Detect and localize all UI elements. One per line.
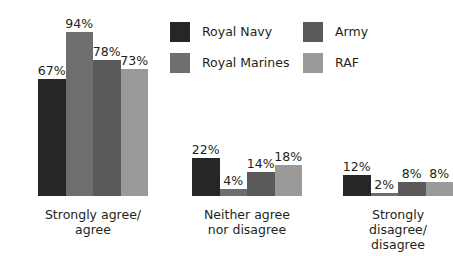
- bar-value-label: 73%: [120, 54, 148, 67]
- category-label: Strongly agree/ agree: [38, 207, 148, 237]
- bar-value-label: 8%: [402, 167, 422, 180]
- bar-royal-marines: 94%: [66, 26, 94, 196]
- bar-value-label: 12%: [343, 160, 371, 173]
- bar-rect: [275, 165, 303, 196]
- bar-rect: [121, 69, 149, 196]
- bar-army: 8%: [398, 26, 426, 196]
- bar-value-label: 2%: [374, 178, 394, 191]
- bar-value-label: 94%: [65, 17, 93, 30]
- bar-royal-navy: 67%: [38, 26, 66, 196]
- bar-royal-marines: 4%: [220, 26, 248, 196]
- bar-group-bars: 22% 4% 14% 18%: [192, 26, 302, 196]
- bar-rect: [371, 193, 399, 196]
- category-label: Strongly disagree/ disagree: [343, 207, 453, 252]
- bar-raf: 8%: [426, 26, 453, 196]
- plot-area: 67% 94% 78% 73% Strongly agree/ agree: [0, 0, 453, 256]
- bar-value-label: 4%: [223, 174, 243, 187]
- bar-value-label: 22%: [192, 143, 220, 156]
- category-label: Neither agree nor disagree: [192, 207, 302, 237]
- bar-army: 78%: [93, 26, 121, 196]
- bar-rect: [93, 60, 121, 196]
- bar-rect: [66, 32, 94, 196]
- bar-group-bars: 12% 2% 8% 8%: [343, 26, 453, 196]
- bar-royal-navy: 22%: [192, 26, 220, 196]
- bar-rect: [192, 158, 220, 196]
- bar-value-label: 78%: [93, 45, 121, 58]
- bar-rect: [38, 79, 66, 196]
- bar-value-label: 67%: [38, 64, 66, 77]
- bar-value-label: 18%: [274, 150, 302, 163]
- bar-value-label: 8%: [429, 167, 449, 180]
- bar-royal-marines: 2%: [371, 26, 399, 196]
- bar-raf: 73%: [121, 26, 149, 196]
- bar-rect: [343, 175, 371, 196]
- bar-royal-navy: 12%: [343, 26, 371, 196]
- bar-rect: [247, 172, 275, 196]
- bar-raf: 18%: [275, 26, 303, 196]
- bar-rect: [398, 182, 426, 196]
- bar-rect: [426, 182, 453, 196]
- bar-rect: [220, 189, 248, 196]
- bar-value-label: 14%: [247, 157, 275, 170]
- bar-chart: Royal Navy Royal Marines Army RAF 67% 94…: [0, 0, 453, 256]
- bar-group-bars: 67% 94% 78% 73%: [38, 26, 148, 196]
- bar-army: 14%: [247, 26, 275, 196]
